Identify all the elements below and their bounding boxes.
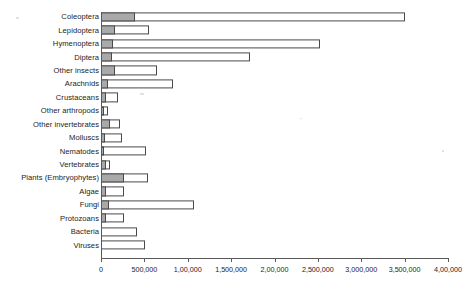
- bar-segment-estimated: [101, 200, 194, 209]
- bar-segment-described: [101, 187, 106, 196]
- bar-row: Molluscs: [0, 131, 462, 144]
- bar-segment-described: [101, 120, 110, 129]
- bar-segment-described: [101, 66, 115, 75]
- x-axis-tick-label: 2,500,000: [302, 265, 334, 274]
- bar-segment-estimated: [101, 12, 405, 21]
- bar-row: Other invertebrates: [0, 118, 462, 131]
- bar-row-label: Viruses: [0, 241, 99, 250]
- bar-row: Lepidoptera: [0, 23, 462, 36]
- x-axis-tick: [361, 258, 362, 262]
- bar-row: Crustaceans: [0, 91, 462, 104]
- x-axis-tick-label: 500,000: [131, 265, 157, 274]
- bar-row-label: Plants (Embryophytes): [0, 173, 99, 182]
- bar-row: Coleoptera: [0, 10, 462, 23]
- bar-row-label: Hymenoptera: [0, 39, 99, 48]
- x-axis-tick: [275, 258, 276, 262]
- bar-segment-described: [101, 160, 106, 169]
- bar-segment-described: [101, 93, 106, 102]
- bar-track: [101, 93, 448, 102]
- bar-segment-described: [101, 214, 106, 223]
- bar-segment-estimated: [101, 52, 250, 61]
- x-axis-tick: [101, 258, 102, 262]
- x-axis-tick-label: 0: [99, 265, 103, 274]
- x-axis-tick: [188, 258, 189, 262]
- bar-track: [101, 227, 448, 236]
- bar-row-label: Bacteria: [0, 227, 99, 236]
- bar-row: Other arthropods: [0, 104, 462, 117]
- bar-segment-estimated: [101, 79, 173, 88]
- bar-track: [101, 52, 448, 61]
- bar-row: Algae: [0, 185, 462, 198]
- bar-track: [101, 133, 448, 142]
- bar-row-label: Vertebrates: [0, 160, 99, 169]
- bar-track: [101, 79, 448, 88]
- y-axis-line: [101, 12, 102, 258]
- bar-row-label: Fungi: [0, 200, 99, 209]
- bar-segment-estimated: [101, 39, 320, 48]
- bar-track: [101, 187, 448, 196]
- bar-row: Hymenoptera: [0, 37, 462, 50]
- bar-row-label: Nematodes: [0, 147, 99, 156]
- bar-row-label: Crustaceans: [0, 93, 99, 102]
- bar-row-label: Diptera: [0, 53, 99, 62]
- x-axis-tick: [318, 258, 319, 262]
- bar-track: [101, 39, 448, 48]
- bar-row: Diptera: [0, 50, 462, 63]
- bar-segment-described: [101, 26, 115, 35]
- bar-track: [101, 147, 448, 156]
- bar-track: [101, 214, 448, 223]
- bar-track: [101, 200, 448, 209]
- x-axis-tick: [144, 258, 145, 262]
- bar-segment-described: [101, 79, 108, 88]
- bar-row: Nematodes: [0, 144, 462, 157]
- bar-track: [101, 160, 448, 169]
- bar-segment-described: [101, 39, 113, 48]
- plot-area: ColeopteraLepidopteraHymenopteraDipteraO…: [0, 10, 462, 258]
- bar-chart: ColeopteraLepidopteraHymenopteraDipteraO…: [0, 0, 462, 289]
- bar-row-label: Coleoptera: [0, 12, 99, 21]
- bar-segment-estimated: [101, 241, 145, 250]
- x-axis-tick-label: 1,00,000: [174, 265, 202, 274]
- bar-track: [101, 241, 448, 250]
- bar-row-label: Algae: [0, 187, 99, 196]
- bar-track: [101, 26, 448, 35]
- bar-segment-described: [101, 12, 135, 21]
- bar-row: Plants (Embryophytes): [0, 171, 462, 184]
- bar-row-label: Arachnids: [0, 79, 99, 88]
- bar-row-label: Other invertebrates: [0, 120, 99, 129]
- bar-row-label: Other insects: [0, 66, 99, 75]
- bar-segment-described: [101, 52, 112, 61]
- bar-track: [101, 66, 448, 75]
- bar-segment-estimated: [101, 227, 137, 236]
- bar-row: Bacteria: [0, 225, 462, 238]
- bar-segment-described: [101, 133, 105, 142]
- bar-track: [101, 12, 448, 21]
- bar-row: Fungi: [0, 198, 462, 211]
- bar-row: Viruses: [0, 238, 462, 251]
- x-axis-tick-label: 3,500,000: [389, 265, 421, 274]
- x-axis-tick: [405, 258, 406, 262]
- bar-row-label: Protozoans: [0, 214, 99, 223]
- x-axis-tick-label: 1,500,000: [215, 265, 247, 274]
- bar-segment-estimated: [101, 147, 146, 156]
- bar-track: [101, 173, 448, 182]
- bar-row: Vertebrates: [0, 158, 462, 171]
- bar-row-label: Molluscs: [0, 133, 99, 142]
- x-axis-tick-label: 4,00,000: [434, 265, 462, 274]
- x-axis-tick-label: 2,00,000: [261, 265, 289, 274]
- bar-row-label: Lepidoptera: [0, 26, 99, 35]
- bar-track: [101, 106, 448, 115]
- x-axis-tick: [448, 258, 449, 262]
- bar-segment-described: [101, 173, 124, 182]
- x-axis-tick: [231, 258, 232, 262]
- bar-segment-described: [101, 200, 109, 209]
- bar-row-label: Other arthropods: [0, 106, 99, 115]
- bar-rows: ColeopteraLepidopteraHymenopteraDipteraO…: [0, 10, 462, 252]
- bar-row: Protozoans: [0, 212, 462, 225]
- bar-row: Arachnids: [0, 77, 462, 90]
- bar-track: [101, 120, 448, 129]
- bar-row: Other insects: [0, 64, 462, 77]
- x-axis-tick-label: 3,000,000: [345, 265, 377, 274]
